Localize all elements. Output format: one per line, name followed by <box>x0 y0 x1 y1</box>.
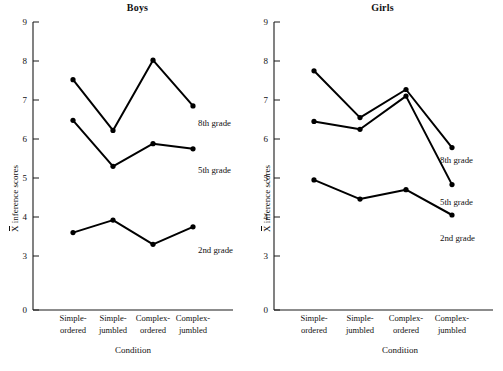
series-label-8th-grade-boys: 8th grade <box>198 118 231 128</box>
x-category-label-1: Simple- ordered <box>288 313 340 336</box>
data-point-5th-grade-1 <box>110 164 115 169</box>
series-line-5th-grade <box>314 96 452 185</box>
data-point-8th-grade-2 <box>403 87 408 92</box>
x-category-label-3-line1: Complex- <box>380 313 432 325</box>
y-tick-label-8: 8 <box>23 56 28 66</box>
series-label-2nd-grade-girls: 2nd grade <box>440 233 475 243</box>
y-tick-label-7: 7 <box>23 95 28 105</box>
data-point-2nd-grade-1 <box>357 197 362 202</box>
x-axis-title-boys: Condition <box>73 345 193 355</box>
data-point-5th-grade-2 <box>150 141 155 146</box>
data-point-5th-grade-0 <box>311 119 316 124</box>
x-category-label-4-line1: Complex- <box>167 313 219 325</box>
series-line-2nd-grade <box>314 180 452 215</box>
x-category-label-4: Complex- jumbled <box>167 313 219 336</box>
y-tick-label-6: 6 <box>23 134 28 144</box>
data-point-2nd-grade-0 <box>70 230 75 235</box>
series-line-2nd-grade <box>73 220 193 244</box>
y-tick-label-3: 3 <box>23 251 28 261</box>
data-point-5th-grade-1 <box>357 127 362 132</box>
data-point-5th-grade-3 <box>449 182 454 187</box>
x-category-label-4-line1: Complex- <box>426 313 478 325</box>
series-label-5th-grade-boys: 5th grade <box>198 165 231 175</box>
data-point-8th-grade-0 <box>70 77 75 82</box>
data-point-5th-grade-2 <box>403 94 408 99</box>
y-axis-title-text: inference scores <box>262 165 272 225</box>
y-tick-label-4: 4 <box>23 212 28 222</box>
x-bar-symbol: X <box>10 226 20 233</box>
series-label-2nd-grade-boys: 2nd grade <box>198 245 233 255</box>
x-category-label-2-line1: Simple- <box>334 313 386 325</box>
data-point-2nd-grade-1 <box>110 218 115 223</box>
x-category-label-1-line2: ordered <box>288 325 340 337</box>
series-line-8th-grade <box>314 71 452 148</box>
y-tick-label-0: 0 <box>264 305 269 315</box>
data-point-2nd-grade-3 <box>449 212 454 217</box>
x-bar-symbol: X <box>262 226 272 233</box>
y-axis-title-text: inference scores <box>10 165 20 225</box>
data-point-2nd-grade-2 <box>150 242 155 247</box>
y-tick-label-7: 7 <box>264 95 269 105</box>
x-category-label-2: Simple- jumbled <box>334 313 386 336</box>
x-category-label-1-line1: Simple- <box>288 313 340 325</box>
x-category-label-4-line2: jumbled <box>167 325 219 337</box>
data-point-8th-grade-1 <box>110 128 115 133</box>
data-point-2nd-grade-3 <box>190 224 195 229</box>
x-category-label-2-line2: jumbled <box>334 325 386 337</box>
x-category-label-4: Complex- jumbled <box>426 313 478 336</box>
series-label-5th-grade-girls: 5th grade <box>440 197 473 207</box>
data-point-5th-grade-0 <box>70 118 75 123</box>
series-line-8th-grade <box>73 60 193 130</box>
y-tick-label-6: 6 <box>264 134 269 144</box>
series-line-5th-grade <box>73 120 193 166</box>
figure-container: Boys 98765430 X inference scores Simple-… <box>0 0 503 371</box>
series-label-8th-grade-girls: 8th grade <box>440 155 473 165</box>
x-category-label-3-line2: ordered <box>380 325 432 337</box>
y-tick-label-8: 8 <box>264 56 269 66</box>
y-axis-title-girls: X inference scores <box>262 165 272 232</box>
y-tick-label-9: 9 <box>264 17 269 27</box>
y-axis-title-boys: X inference scores <box>10 165 20 232</box>
data-point-8th-grade-1 <box>357 115 362 120</box>
y-tick-label-9: 9 <box>23 17 28 27</box>
data-point-8th-grade-3 <box>190 103 195 108</box>
data-point-5th-grade-3 <box>190 146 195 151</box>
data-point-2nd-grade-0 <box>311 177 316 182</box>
x-category-label-4-line2: jumbled <box>426 325 478 337</box>
x-axis-title-girls: Condition <box>340 345 460 355</box>
y-tick-label-3: 3 <box>264 251 269 261</box>
data-point-2nd-grade-2 <box>403 187 408 192</box>
data-point-8th-grade-3 <box>449 145 454 150</box>
y-tick-label-5: 5 <box>23 173 28 183</box>
data-point-8th-grade-2 <box>150 58 155 63</box>
y-tick-label-0: 0 <box>23 305 28 315</box>
chart-panel-boys: Boys 98765430 X inference scores Simple-… <box>0 0 251 371</box>
chart-panel-girls: Girls 98765430 X inference scores Simple… <box>250 0 501 371</box>
data-point-8th-grade-0 <box>311 68 316 73</box>
x-category-label-3: Complex- ordered <box>380 313 432 336</box>
